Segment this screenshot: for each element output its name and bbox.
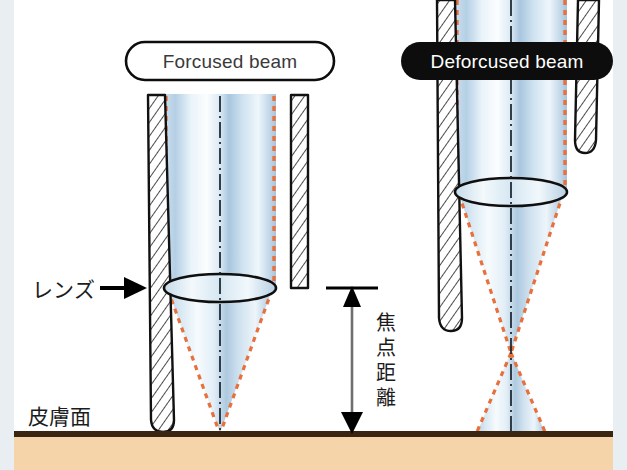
- beam-focus-diagram: Forcused beam Deforcused beam レンズ 皮膚面 焦 …: [0, 0, 627, 470]
- label-skin-surface-japanese: 皮膚面: [28, 405, 91, 429]
- focal-char-4: 離: [376, 386, 396, 410]
- label-lens-japanese: レンズ: [32, 278, 95, 302]
- skin-surface-line: [14, 431, 613, 437]
- label-forcused-text: Forcused beam: [163, 51, 298, 72]
- left-barrel-wall-right: [291, 95, 308, 288]
- right-edge-strip: [613, 0, 627, 470]
- figure-canvas: Forcused beam Deforcused beam レンズ 皮膚面 焦 …: [0, 0, 627, 470]
- left-edge-strip: [0, 0, 14, 470]
- label-forcused-beam: Forcused beam: [126, 42, 334, 80]
- skin-layer: [14, 436, 613, 470]
- label-deforcused-text: Deforcused beam: [431, 51, 584, 72]
- focal-char-2: 点: [376, 336, 396, 360]
- focal-char-1: 焦: [376, 311, 396, 335]
- focal-char-3: 距: [376, 361, 396, 385]
- label-deforcused-beam: Deforcused beam: [401, 42, 613, 80]
- label-focal-distance-vertical: 焦 点 距 離: [376, 311, 396, 410]
